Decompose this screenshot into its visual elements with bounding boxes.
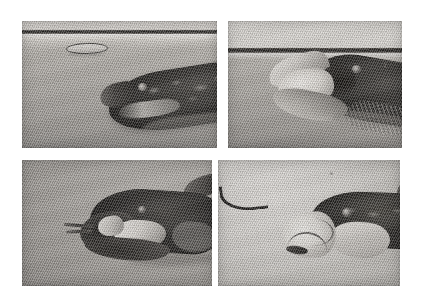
worm-lure-icon [219, 182, 269, 214]
image-speck [330, 172, 333, 175]
fish-eye-icon [138, 83, 147, 91]
photo-panel-top-left[interactable] [22, 21, 217, 148]
fish-shadow [126, 252, 212, 266]
photo-panel-top-right[interactable] [228, 21, 402, 148]
photo-panel-bottom-right[interactable] [218, 160, 400, 286]
water-surface-glow [22, 34, 217, 39]
figure-plate [0, 0, 424, 301]
fish-eye-icon [352, 65, 361, 73]
image-speck [384, 62, 386, 68]
photo-panel-bottom-left[interactable] [22, 160, 212, 286]
fish-eye-icon [342, 208, 352, 217]
fish-eye-icon [138, 206, 146, 213]
